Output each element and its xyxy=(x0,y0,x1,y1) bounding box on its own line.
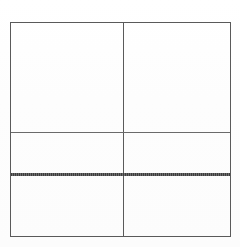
table-cell xyxy=(124,176,230,236)
table-cell xyxy=(124,133,230,173)
table-frame xyxy=(10,22,231,237)
table-cell xyxy=(124,23,230,132)
page-canvas xyxy=(0,0,240,247)
table-cell xyxy=(11,176,123,236)
table-cell xyxy=(11,133,123,173)
table-cell xyxy=(11,23,123,132)
